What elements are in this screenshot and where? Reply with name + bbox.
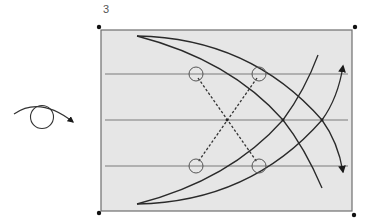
clockwise-rotation-icon: [14, 106, 73, 129]
corner-dot: [97, 211, 101, 215]
corner-dot: [352, 213, 356, 217]
corner-dot: [97, 25, 101, 29]
kinematics-diagram: [0, 0, 375, 220]
corner-dot: [353, 25, 357, 29]
